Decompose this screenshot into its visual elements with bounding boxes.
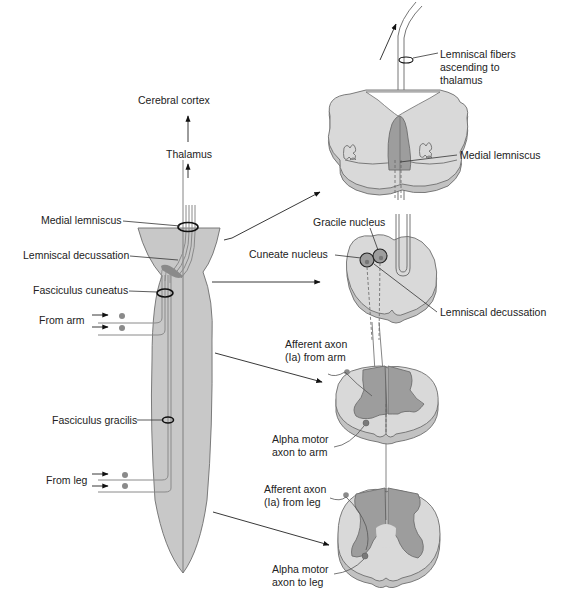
section-lower-medulla: Lemniscal decussation Gracile nucleus Cu… [249,214,546,340]
section-cervical-cord: Afferent axon (Ia) from arm Alpha motor … [272,338,438,458]
label-afferent-leg-1: Afferent axon [264,483,326,495]
label-motor-arm-1: Alpha motor [272,433,329,445]
label-lemniscal-fibers-1: Lemniscal fibers [440,48,516,60]
label-cerebral-cortex: Cerebral cortex [138,94,211,106]
gracile-nucleus [373,249,387,263]
dcml-pathway-diagram: Cerebral cortex Thalamus [0,0,564,608]
arrow-to-lumbar-cord [213,512,329,545]
label-fasciculus-gracilis: Fasciculus gracilis [52,414,137,426]
label-motor-arm-2: axon to arm [272,446,328,458]
label-afferent-leg-2: (Ia) from leg [264,496,321,508]
section-upper-medulla: Medial lemniscus [328,90,540,200]
arrow-ascending [380,24,396,60]
ganglion-cell-leg-1 [122,472,128,478]
label-motor-leg-1: Alpha motor [272,563,329,575]
label-motor-leg-2: axon to leg [272,576,324,588]
ganglion-cell-arm-1 [119,313,125,319]
ganglion-cell-leg-2 [122,483,128,489]
label-thalamus: Thalamus [166,148,212,160]
leader-fasciculus-cuneatus [129,291,157,292]
label-medial-lemniscus-right: Medial lemniscus [460,149,541,161]
ring-lemniscal-fibers [399,57,413,63]
arrow-to-upper-medulla [224,192,320,240]
label-lemniscal-fibers-2: ascending to [440,61,500,73]
label-from-arm: From arm [39,314,85,326]
section-lumbar-cord: Afferent axon (Ia) from leg Alpha motor … [264,483,440,588]
leader-medial-lemniscus [123,221,180,226]
label-cuneate-nucleus: Cuneate nucleus [249,248,328,260]
label-afferent-arm-2: (Ia) from arm [285,351,346,363]
label-medial-lemniscus: Medial lemniscus [41,214,122,226]
brainstem-spinal-cord-body [138,228,220,573]
label-lemniscal-decussation-right: Lemniscal decussation [440,306,546,318]
ganglion-cell-arm-2 [119,325,125,331]
label-gracile-nucleus: Gracile nucleus [313,216,385,228]
leader-lemniscal-fibers [413,53,438,58]
left-panel: Cerebral cortex Thalamus [23,94,220,573]
label-from-leg: From leg [46,474,88,486]
label-afferent-arm-1: Afferent axon [285,338,347,350]
label-fasciculus-cuneatus: Fasciculus cuneatus [33,284,128,296]
right-panel: Lemniscal fibers ascending to thalamus M… [249,2,546,588]
label-lemniscal-fibers-3: thalamus [440,74,483,86]
label-lemniscal-decussation: Lemniscal decussation [23,249,129,261]
